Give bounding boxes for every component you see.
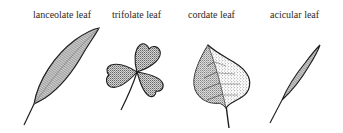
- cordate-leaf-label: cordate leaf: [188, 9, 235, 21]
- trifolate-leaf-icon: [107, 44, 164, 110]
- cordate-leaf-icon: [194, 45, 250, 128]
- lanceolate-leaf-icon: [24, 28, 99, 125]
- trifolate-leaf-label: trifolate leaf: [112, 9, 161, 21]
- leaf-types-diagram: lanceolate leaf trifolate leaf cordate l…: [0, 0, 343, 133]
- acicular-leaf-label: acicular leaf: [270, 9, 319, 21]
- lanceolate-leaf-label: lanceolate leaf: [33, 9, 91, 21]
- acicular-leaf-icon: [270, 45, 320, 123]
